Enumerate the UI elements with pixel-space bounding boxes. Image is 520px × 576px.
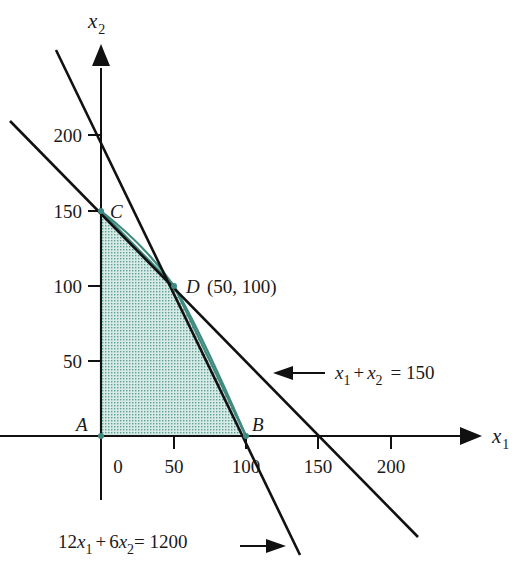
x-axis-label: x1 <box>491 424 509 452</box>
vertex-b-label: B <box>252 414 264 435</box>
x-axis-arrow-icon <box>460 427 482 445</box>
feasible-region <box>101 211 246 436</box>
y-tick-50: 50 <box>63 351 82 372</box>
x-tick-150: 150 <box>304 456 333 477</box>
y-tick-200: 200 <box>54 125 83 146</box>
vertex-a-label: A <box>74 414 88 435</box>
right-arrow-icon <box>266 539 286 553</box>
svg-text:12x1+6x2= 1200: 12x1+6x2= 1200 <box>58 531 188 557</box>
x-tick-200: 200 <box>377 456 406 477</box>
left-arrow-icon <box>273 366 293 380</box>
constraint-line-x1-plus-x2-150 <box>10 121 418 537</box>
vertex-a-marker <box>98 433 104 439</box>
y-tick-150: 150 <box>54 201 83 222</box>
vertex-d-coords: (50, 100) <box>207 276 277 298</box>
constraint-line-12x1-plus-6x2-1200 <box>56 50 300 555</box>
x-tick-0: 0 <box>113 456 123 477</box>
vertex-d-marker <box>171 283 177 289</box>
svg-text:x1+x2= 150: x1+x2= 150 <box>334 362 435 388</box>
y-tick-100: 100 <box>54 276 83 297</box>
annotation-constraint-1: x1+x2= 150 <box>273 362 435 388</box>
vertex-d-label: D <box>185 276 200 297</box>
y-axis-label: x2 <box>87 9 105 37</box>
x-tick-50: 50 <box>165 456 184 477</box>
annotation-constraint-2: 12x1+6x2= 1200 <box>58 531 286 557</box>
y-axis-arrow-icon <box>92 44 110 66</box>
vertex-b-marker <box>243 433 249 439</box>
lp-feasible-region-diagram: 50 100 150 200 x2 0 50 100 150 200 x1 <box>0 0 520 576</box>
vertex-c-label: C <box>110 201 123 222</box>
vertex-c-marker <box>98 208 104 214</box>
